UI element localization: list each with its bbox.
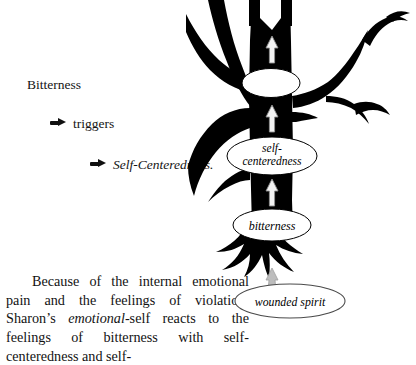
tree-twig-right-lower [326, 96, 390, 124]
wounded-spirit-label: wounded spirit [255, 295, 326, 309]
paragraph-emphasis: emotional [68, 310, 125, 326]
outline-item-triggers-label: triggers [73, 116, 114, 131]
right-arrow-icon [90, 159, 107, 168]
tree-branch-lower-left [208, 168, 250, 202]
tree-twig-right-hook [362, 11, 410, 46]
tree-diagram: self- centeredness bitterness wounded sp… [186, 0, 416, 353]
self-centeredness-label-line2: centeredness [243, 155, 302, 167]
self-centeredness-label-line1: self- [262, 142, 282, 155]
bitterness-label: bitterness [249, 219, 296, 233]
crown-ellipse [242, 69, 300, 98]
tree-branch-left-tall [208, 0, 250, 106]
right-arrow-icon [50, 118, 67, 127]
outline-item-triggers: triggers [50, 117, 114, 132]
outline-heading-bitterness: Bitterness [27, 78, 81, 93]
tree-branch-right-mid [292, 112, 318, 122]
